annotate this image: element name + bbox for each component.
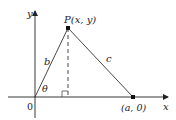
angle-theta-label: θ: [42, 83, 48, 94]
triangle-diagram: y x 0 P(x, y) (a, 0) b c θ: [0, 0, 176, 120]
origin-label: 0: [27, 101, 33, 112]
point-a: [131, 95, 135, 99]
right-angle-mark: [62, 91, 68, 97]
point-p: [66, 26, 70, 30]
y-axis-label: y: [26, 8, 33, 19]
point-a-label: (a, 0): [121, 102, 146, 113]
side-c: [68, 28, 133, 97]
x-axis-label: x: [163, 101, 169, 112]
side-b-label: b: [44, 56, 50, 67]
side-b: [35, 28, 68, 97]
point-p-label: P(x, y): [63, 14, 96, 25]
side-c-label: c: [106, 53, 112, 64]
